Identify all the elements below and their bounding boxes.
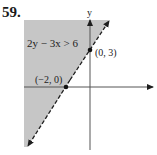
point-0-3: [88, 48, 93, 53]
inequality-graph: y 2y − 3x > 6 (0, 3) (−2, 0): [0, 0, 157, 155]
y-axis-label: y: [87, 7, 92, 18]
point-label-neg2-0: (−2, 0): [35, 74, 62, 86]
point-label-0-3: (0, 3): [95, 47, 117, 59]
point-neg2-0: [64, 85, 69, 90]
inequality-label: 2y − 3x > 6: [27, 37, 78, 49]
